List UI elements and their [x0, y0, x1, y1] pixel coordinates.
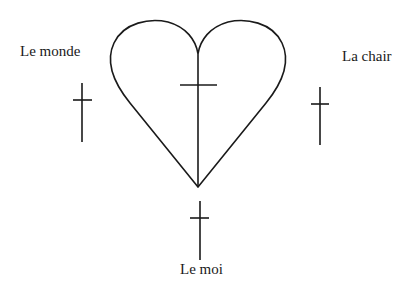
- label-self: Le moi: [180, 261, 223, 278]
- left-cross-icon: [73, 83, 92, 142]
- heart-cross-icon: [180, 54, 217, 187]
- label-flesh: La chair: [342, 48, 392, 65]
- label-world: Le monde: [20, 43, 80, 60]
- bottom-cross-icon: [190, 201, 209, 260]
- diagram-canvas: Le monde La chair Le moi: [0, 0, 412, 289]
- right-cross-icon: [311, 87, 329, 145]
